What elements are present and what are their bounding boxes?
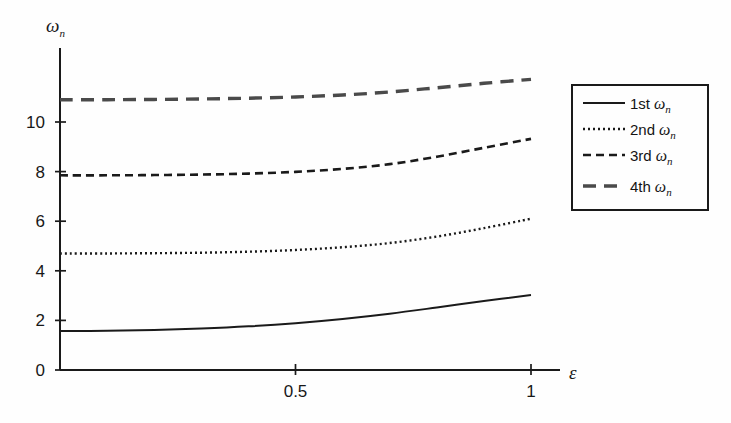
x-tick-label: 1	[526, 382, 535, 401]
y-tick-label: 10	[26, 113, 45, 132]
chart-figure: 0246810 0.51 ωn ε 1stωn2ndωn3rdωn4thωn	[0, 0, 731, 423]
y-tick-label: 8	[36, 163, 45, 182]
omega-vs-epsilon-chart: 0246810 0.51 ωn ε 1stωn2ndωn3rdωn4thωn	[0, 0, 731, 423]
y-tick-label: 0	[36, 361, 45, 380]
y-tick-label: 4	[36, 262, 45, 281]
y-tick-label: 6	[36, 212, 45, 231]
chart-background	[0, 0, 731, 423]
chart-legend: 1stωn2ndωn3rdωn4thωn	[572, 85, 708, 210]
y-tick-label: 2	[36, 311, 45, 330]
x-tick-label: 0.5	[284, 382, 308, 401]
x-axis-label: ε	[569, 362, 577, 383]
